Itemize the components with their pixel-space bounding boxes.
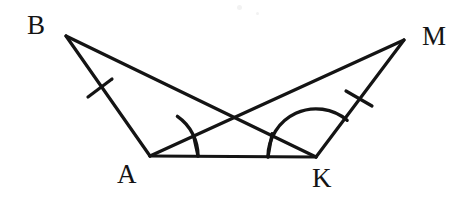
vertex-label-A: A <box>117 161 137 188</box>
vertex-label-M: M <box>422 23 446 50</box>
vertex-label-K: K <box>312 165 332 192</box>
tick-mark-KM <box>346 91 372 106</box>
segment-BA <box>66 36 150 156</box>
geometry-diagram: B M A K <box>0 0 469 208</box>
segment-AK <box>150 156 316 157</box>
vertex-label-B: B <box>27 12 45 39</box>
inner-tick-K <box>268 134 272 157</box>
inner-tick-A <box>194 136 198 156</box>
scan-speck-1 <box>237 5 242 10</box>
scan-speck-2 <box>256 12 259 15</box>
geometry-canvas <box>0 0 469 208</box>
